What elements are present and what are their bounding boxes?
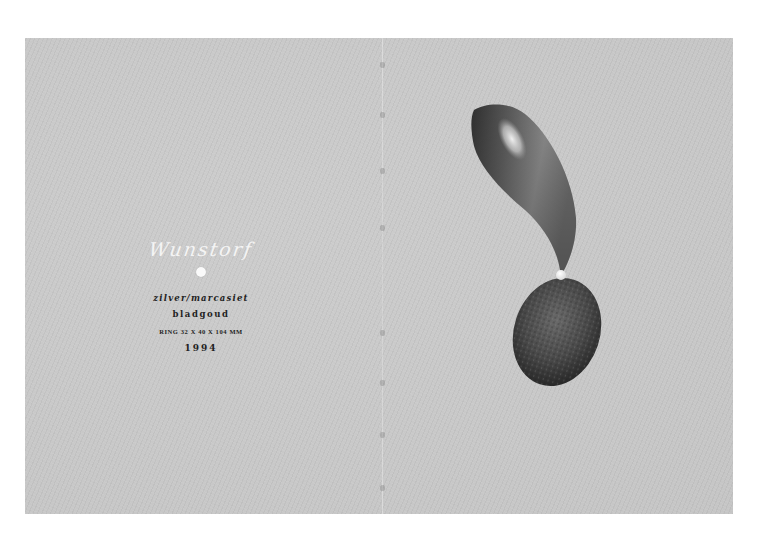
page-canvas: Wunstorf zilver/marcasiet bladgoud RING … (0, 0, 770, 553)
catalogue-spread: Wunstorf zilver/marcasiet bladgoud RING … (25, 38, 733, 514)
pearl-bead (556, 270, 566, 280)
horn-shape (471, 104, 576, 272)
marcasite-stone (499, 266, 615, 397)
ring-sculpture-image (25, 38, 733, 514)
